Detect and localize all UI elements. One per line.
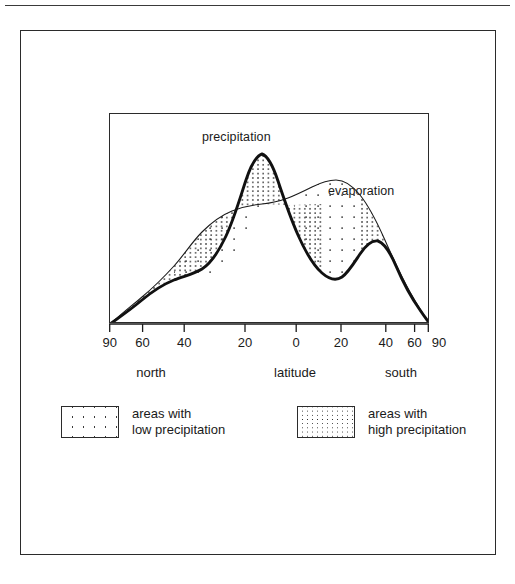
- legend-label-high-line2: high precipitation: [368, 422, 466, 438]
- tick-label-60s: 60: [407, 335, 421, 350]
- legend-label-high-line1: areas with: [368, 406, 466, 422]
- low-precipitation-fill: [164, 154, 360, 284]
- caption-north: north: [136, 365, 166, 380]
- x-axis-captions: north latitude south: [89, 365, 429, 383]
- x-axis: [109, 323, 429, 335]
- tick-label-90s: 90: [432, 335, 446, 350]
- legend: areas with low precipitation areas with …: [61, 406, 481, 456]
- tick-label-20s: 20: [334, 335, 348, 350]
- tick-label-40s: 40: [379, 335, 393, 350]
- legend-swatch-dense-dots: [297, 406, 355, 438]
- precipitation-label: precipitation: [202, 130, 271, 144]
- legend-label-high-precipitation: areas with high precipitation: [368, 406, 466, 438]
- legend-entry-low-precipitation: areas with low precipitation: [61, 406, 225, 438]
- legend-label-low-line1: areas with: [132, 406, 225, 422]
- x-axis-ticks: [110, 324, 429, 332]
- tick-label-0: 0: [293, 335, 300, 350]
- legend-entry-high-precipitation: areas with high precipitation: [297, 406, 466, 438]
- tick-label-20n: 20: [238, 335, 252, 350]
- page-top-rule: [5, 5, 510, 6]
- plot-area: precipitation evaporation: [109, 113, 429, 323]
- x-axis-tick-labels: 90 60 40 20 0 20 40 60 90: [89, 335, 429, 353]
- precipitation-evaporation-plot: [110, 114, 429, 323]
- tick-label-90n: 90: [102, 335, 116, 350]
- legend-swatch-sparse-dots: [61, 406, 119, 438]
- caption-latitude: latitude: [274, 365, 316, 380]
- evaporation-label: evaporation: [328, 184, 394, 198]
- tick-label-60n: 60: [135, 335, 149, 350]
- tick-label-40n: 40: [177, 335, 191, 350]
- caption-south: south: [385, 365, 417, 380]
- legend-label-low-precipitation: areas with low precipitation: [132, 406, 225, 438]
- legend-label-low-line2: low precipitation: [132, 422, 225, 438]
- figure-frame: precipitation evaporation 90 60 40 2: [20, 30, 496, 555]
- chart-block: precipitation evaporation 90 60 40 2: [89, 113, 429, 403]
- high-precipitation-fill: [110, 154, 429, 323]
